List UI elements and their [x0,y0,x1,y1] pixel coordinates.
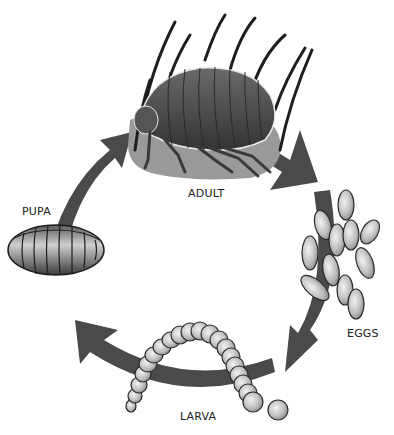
stage-label-adult: ADULT [188,187,224,200]
stage-label-eggs: EGGS [347,327,379,340]
egg-cluster [297,190,384,319]
life-cycle-diagram [0,0,394,435]
stage-label-larva: LARVA [180,410,216,423]
pupa-cocoon [8,225,104,275]
stage-label-pupa: PUPA [22,205,51,218]
